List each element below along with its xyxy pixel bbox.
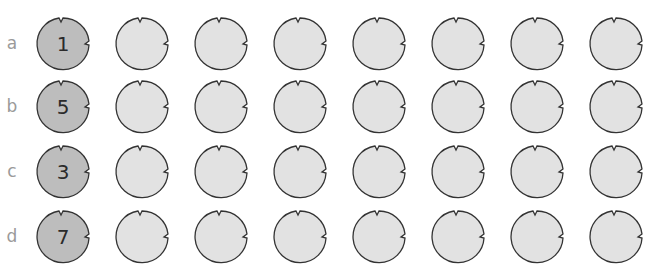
notched-circle-icon xyxy=(191,14,251,74)
notched-circle-icon xyxy=(428,207,488,267)
blank-disc[interactable] xyxy=(586,14,646,74)
notched-circle-icon xyxy=(191,77,251,137)
blank-disc[interactable] xyxy=(586,207,646,267)
blank-disc[interactable] xyxy=(507,77,567,137)
blank-disc[interactable] xyxy=(112,14,172,74)
notched-circle-icon xyxy=(586,142,646,202)
blank-disc[interactable] xyxy=(191,142,251,202)
blank-disc[interactable] xyxy=(349,142,409,202)
disc-number: 3 xyxy=(33,142,93,202)
blank-disc[interactable] xyxy=(270,142,330,202)
notched-circle-icon xyxy=(270,77,330,137)
notched-circle-icon xyxy=(191,207,251,267)
row-label-a: a xyxy=(0,33,24,53)
notched-circle-icon xyxy=(270,14,330,74)
disc-number: 5 xyxy=(33,77,93,137)
numbered-disc[interactable]: 1 xyxy=(33,14,93,74)
disc-number: 7 xyxy=(33,207,93,267)
blank-disc[interactable] xyxy=(507,14,567,74)
blank-disc[interactable] xyxy=(270,14,330,74)
blank-disc[interactable] xyxy=(191,207,251,267)
blank-disc[interactable] xyxy=(428,77,488,137)
notched-circle-icon xyxy=(112,142,172,202)
notched-circle-icon xyxy=(586,207,646,267)
numbered-disc[interactable]: 3 xyxy=(33,142,93,202)
blank-disc[interactable] xyxy=(349,207,409,267)
notched-circle-icon xyxy=(349,14,409,74)
notched-circle-icon xyxy=(349,142,409,202)
blank-disc[interactable] xyxy=(507,207,567,267)
numbered-disc[interactable]: 5 xyxy=(33,77,93,137)
blank-disc[interactable] xyxy=(507,142,567,202)
disc-number: 1 xyxy=(33,14,93,74)
blank-disc[interactable] xyxy=(586,142,646,202)
blank-disc[interactable] xyxy=(112,207,172,267)
blank-disc[interactable] xyxy=(191,14,251,74)
blank-disc[interactable] xyxy=(112,142,172,202)
notched-circle-icon xyxy=(191,142,251,202)
row-label-d: d xyxy=(0,226,24,246)
notched-circle-icon xyxy=(270,207,330,267)
blank-disc[interactable] xyxy=(270,77,330,137)
blank-disc[interactable] xyxy=(349,77,409,137)
notched-circle-icon xyxy=(428,14,488,74)
blank-disc[interactable] xyxy=(586,77,646,137)
blank-disc[interactable] xyxy=(428,14,488,74)
notched-circle-icon xyxy=(507,207,567,267)
notched-circle-icon xyxy=(507,142,567,202)
notched-circle-icon xyxy=(270,142,330,202)
blank-disc[interactable] xyxy=(112,77,172,137)
notched-circle-icon xyxy=(507,77,567,137)
blank-disc[interactable] xyxy=(428,207,488,267)
notched-circle-icon xyxy=(349,207,409,267)
notched-circle-icon xyxy=(112,207,172,267)
notched-circle-icon xyxy=(349,77,409,137)
notched-circle-icon xyxy=(507,14,567,74)
row-label-b: b xyxy=(0,96,24,116)
blank-disc[interactable] xyxy=(349,14,409,74)
notched-circle-icon xyxy=(112,77,172,137)
notched-circle-icon xyxy=(586,14,646,74)
numbered-disc[interactable]: 7 xyxy=(33,207,93,267)
notched-circle-icon xyxy=(428,142,488,202)
blank-disc[interactable] xyxy=(270,207,330,267)
row-label-c: c xyxy=(0,161,24,181)
blank-disc[interactable] xyxy=(428,142,488,202)
blank-disc[interactable] xyxy=(191,77,251,137)
notched-circle-icon xyxy=(586,77,646,137)
notched-circle-icon xyxy=(112,14,172,74)
notched-circle-icon xyxy=(428,77,488,137)
